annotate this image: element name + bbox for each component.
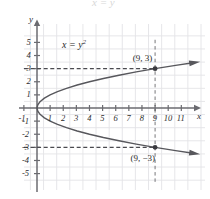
y-tick-label-4: 1 bbox=[27, 90, 31, 99]
gridlines bbox=[24, 24, 205, 190]
y-tick-label-0: 5 bbox=[27, 38, 31, 47]
x-tick-label-1: 1 bbox=[48, 114, 52, 123]
y-tick-label-7: -3 bbox=[22, 143, 29, 152]
y-tick-label-3: 2 bbox=[27, 77, 31, 86]
axes bbox=[19, 20, 201, 193]
x-tick-label-9: 9 bbox=[153, 114, 157, 123]
y-tick-label-6: -2 bbox=[22, 130, 29, 139]
x-tick-label-3: 3 bbox=[74, 114, 78, 123]
graph-figure: x = y -1123456789101154321-1-2-3-4-5(9, … bbox=[0, 0, 210, 199]
y-tick-label-5: -1 bbox=[22, 117, 29, 126]
y-axis-label: y bbox=[29, 15, 33, 24]
x-axis-label: x bbox=[197, 112, 201, 121]
equation-text: x = y bbox=[62, 39, 83, 50]
x-tick-label-10: 10 bbox=[164, 114, 173, 123]
x-tick-label-4: 4 bbox=[87, 114, 91, 123]
x-tick-label-11: 11 bbox=[177, 114, 185, 123]
y-tick-label-9: -5 bbox=[22, 169, 29, 178]
point-annotation-1: (9, 3) bbox=[133, 54, 153, 63]
y-tick-label-2: 3 bbox=[27, 64, 31, 73]
x-tick-label-6: 6 bbox=[113, 114, 117, 123]
x-tick-label-7: 7 bbox=[127, 114, 131, 123]
y-tick-label-1: 4 bbox=[27, 51, 31, 60]
x-tick-label-5: 5 bbox=[100, 114, 104, 123]
coordinate-plane bbox=[0, 0, 210, 199]
x-tick-label-8: 8 bbox=[140, 114, 144, 123]
x-tick-label-2: 2 bbox=[61, 114, 65, 123]
equation-label: x = y2 bbox=[62, 40, 86, 50]
equation-exponent: 2 bbox=[83, 38, 86, 45]
point-annotation-2: (9, −3) bbox=[130, 154, 155, 163]
y-tick-label-8: -4 bbox=[22, 156, 29, 165]
